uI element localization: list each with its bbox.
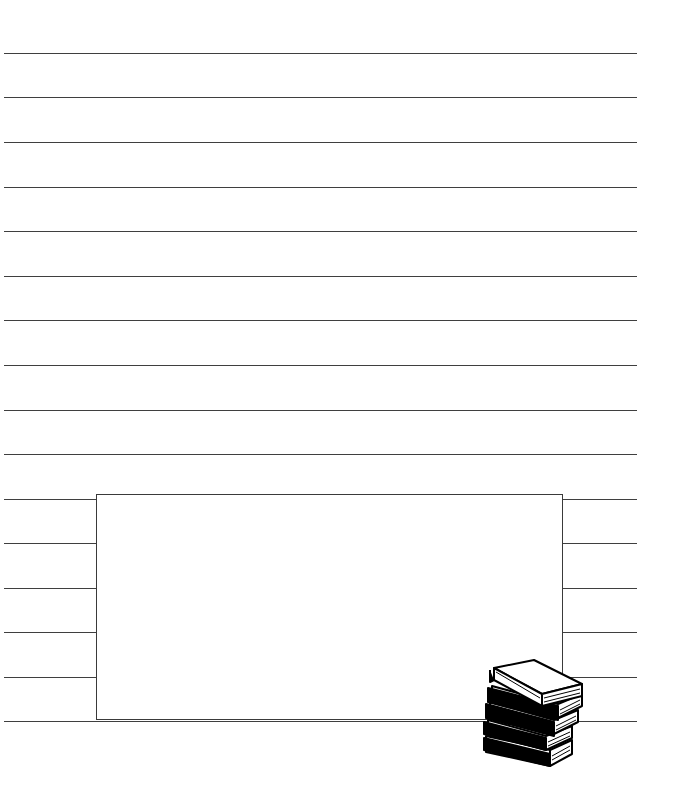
- ruled-line: [562, 499, 637, 500]
- ruled-line: [4, 632, 97, 633]
- ruled-line: [4, 588, 97, 589]
- ruled-line: [4, 320, 637, 321]
- stack-of-books-icon: [480, 658, 588, 770]
- ruled-line: [4, 276, 637, 277]
- ruled-line: [4, 454, 637, 455]
- ruled-line: [4, 53, 637, 54]
- ruled-line: [4, 499, 97, 500]
- ruled-line: [4, 410, 637, 411]
- ruled-line: [4, 97, 637, 98]
- ruled-line: [562, 588, 637, 589]
- ruled-line: [4, 187, 637, 188]
- ruled-line: [562, 632, 637, 633]
- ruled-line: [4, 365, 637, 366]
- ruled-line: [562, 543, 637, 544]
- ruled-line: [4, 142, 637, 143]
- ruled-line: [4, 677, 97, 678]
- ruled-line: [4, 231, 637, 232]
- ruled-line: [4, 543, 97, 544]
